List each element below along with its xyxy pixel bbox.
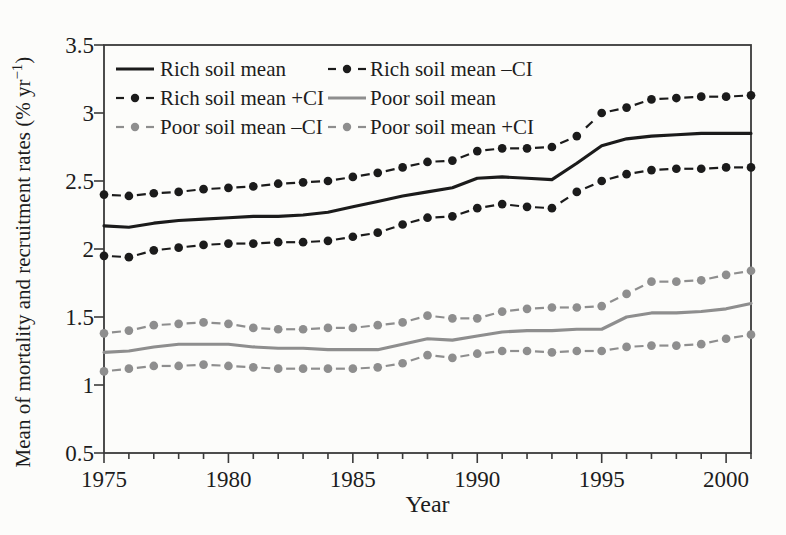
data-point [398, 359, 407, 368]
data-point [373, 363, 382, 372]
data-point [348, 324, 357, 333]
data-point [249, 324, 258, 333]
data-point [722, 163, 731, 172]
data-point [597, 177, 606, 186]
legend-sample-marker [343, 123, 351, 131]
data-point [324, 324, 333, 333]
data-point [373, 321, 382, 330]
data-point [722, 334, 731, 343]
data-point [249, 182, 258, 191]
series-poor-soil-mean-ci [100, 266, 756, 337]
y-axis-title: Mean of mortality and recruitment rates … [9, 57, 35, 468]
data-point [747, 330, 756, 339]
data-point [622, 290, 631, 299]
data-point [100, 190, 109, 199]
data-point [373, 168, 382, 177]
data-point [423, 351, 432, 360]
y-tick-label: 2.5 [65, 169, 94, 194]
series-rich-soil-mean-ci [100, 163, 756, 261]
legend-label: Rich soil mean –CI [370, 57, 533, 81]
data-point [697, 276, 706, 285]
data-point [398, 220, 407, 229]
legend-label: Poor soil mean +CI [370, 115, 534, 139]
data-point [125, 253, 134, 262]
data-point [498, 307, 507, 316]
data-point [274, 238, 283, 247]
data-point [125, 192, 134, 201]
legend-label: Rich soil mean +CI [160, 86, 324, 110]
data-point [473, 349, 482, 358]
data-point [299, 364, 308, 373]
y-tick-label: 3 [83, 101, 95, 126]
data-point [448, 212, 457, 221]
data-point [125, 364, 134, 373]
data-point [747, 266, 756, 275]
data-point [348, 173, 357, 182]
data-point [125, 326, 134, 335]
data-point [473, 147, 482, 156]
series-rich-soil-mean [104, 133, 751, 227]
data-point [473, 314, 482, 323]
legend-label: Poor soil mean [370, 86, 496, 110]
data-point [697, 340, 706, 349]
data-point [423, 158, 432, 167]
data-point [622, 170, 631, 179]
data-point [448, 314, 457, 323]
y-axis-labels: 0.511.522.533.5 [65, 33, 94, 466]
data-point [149, 321, 158, 330]
y-tick-label: 0.5 [65, 441, 94, 466]
legend: Rich soil meanRich soil mean –CIRich soi… [116, 57, 534, 139]
data-point [324, 364, 333, 373]
data-point [572, 347, 581, 356]
data-point [249, 239, 258, 248]
data-point [324, 236, 333, 245]
legend-item-rich-soil-mean-ci: Rich soil mean +CI [116, 86, 324, 110]
data-point [199, 360, 208, 369]
data-point [174, 319, 183, 328]
data-point [672, 94, 681, 103]
data-point [548, 143, 557, 152]
data-point [224, 319, 233, 328]
data-point [523, 144, 532, 153]
legend-sample-marker [343, 65, 351, 73]
data-point [622, 103, 631, 112]
data-point [199, 241, 208, 250]
data-point [473, 204, 482, 213]
data-point [498, 144, 507, 153]
data-point [697, 164, 706, 173]
data-point [647, 95, 656, 104]
data-point [697, 92, 706, 101]
data-point [224, 239, 233, 248]
data-point [299, 325, 308, 334]
data-point [224, 183, 233, 192]
y-tick-label: 1.5 [65, 305, 94, 330]
legend-item-rich-soil-mean: Rich soil mean [116, 57, 286, 81]
legend-item-poor-soil-mean: Poor soil mean [328, 86, 496, 110]
data-point [199, 318, 208, 327]
x-tick-label: 1990 [454, 467, 500, 492]
data-point [597, 302, 606, 311]
data-point [274, 325, 283, 334]
data-point [622, 343, 631, 352]
data-point [174, 188, 183, 197]
y-tick-label: 1 [83, 373, 95, 398]
data-point [423, 213, 432, 222]
x-tick-label: 1995 [579, 467, 625, 492]
data-point [249, 363, 258, 372]
data-point [523, 347, 532, 356]
data-point [597, 109, 606, 118]
legend-item-poor-soil-mean-ci: Poor soil mean +CI [328, 115, 534, 139]
x-tick-label: 2000 [703, 467, 749, 492]
data-point [398, 318, 407, 327]
data-point [299, 238, 308, 247]
data-point [448, 156, 457, 165]
data-point [647, 166, 656, 175]
data-point [672, 277, 681, 286]
data-point [572, 132, 581, 141]
data-point [274, 364, 283, 373]
legend-item-poor-soil-mean-ci: Poor soil mean –CI [116, 115, 323, 139]
data-point [647, 277, 656, 286]
figure: 1975198019851990199520000.511.522.533.5Y… [0, 0, 786, 535]
data-point [100, 367, 109, 376]
legend-label: Poor soil mean –CI [160, 115, 323, 139]
